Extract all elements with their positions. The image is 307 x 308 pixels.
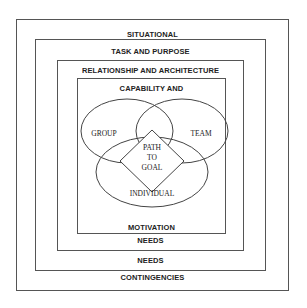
venn-diagram: GROUP TEAM INDIVIDUAL PATH TO GOAL bbox=[0, 0, 307, 308]
center-label-line-1: PATH bbox=[143, 143, 162, 152]
center-label-line-3: GOAL bbox=[142, 163, 163, 172]
team-label: TEAM bbox=[190, 129, 212, 138]
individual-label: INDIVIDUAL bbox=[130, 189, 175, 198]
group-label: GROUP bbox=[91, 129, 116, 138]
center-label-line-2: TO bbox=[147, 153, 157, 162]
